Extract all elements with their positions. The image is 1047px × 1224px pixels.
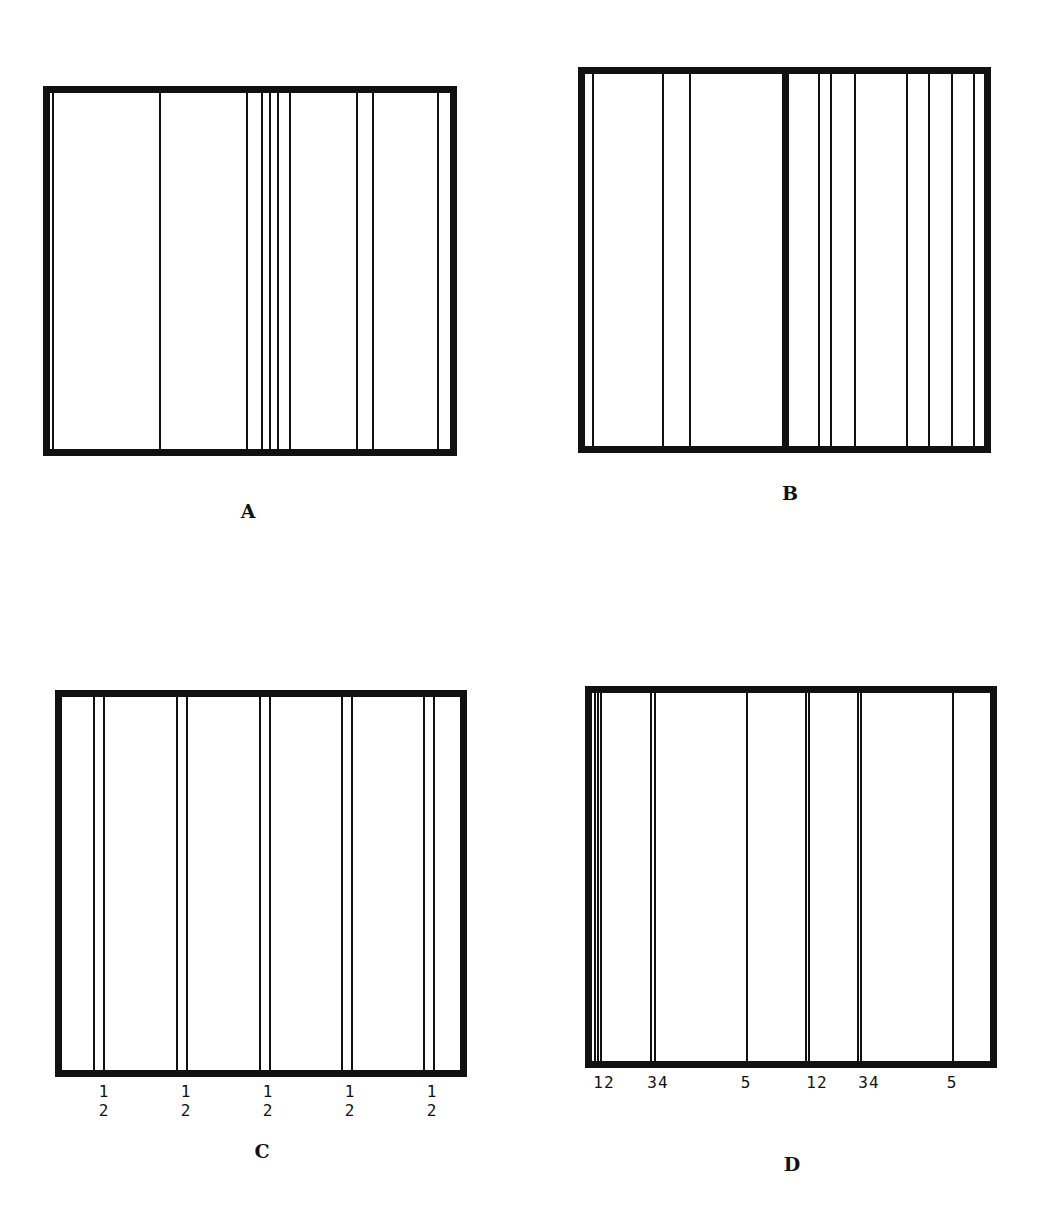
vertical-line [277,93,279,449]
line-label: 12 [593,1073,614,1092]
vertical-line [857,693,859,1061]
vertical-line [662,74,664,446]
line-label: 5 [947,1073,958,1092]
vertical-line [906,74,908,446]
vertical-line [860,693,862,1061]
vertical-line [830,74,832,446]
vertical-line [259,697,261,1070]
vertical-line [597,693,599,1061]
panel-frame [578,67,991,453]
vertical-line [805,693,807,1061]
line-label: 12 [806,1073,827,1092]
vertical-line [433,697,435,1070]
vertical-line [654,693,656,1061]
line-label: 1 2 [181,1082,192,1120]
vertical-line [600,693,602,1061]
vertical-line [186,697,188,1070]
vertical-line [261,93,263,449]
panel-frame [585,686,997,1068]
vertical-line [818,74,820,446]
panel-caption: C [254,1140,269,1162]
vertical-line [854,74,856,446]
vertical-line [159,93,161,449]
vertical-line [269,93,271,449]
panel-frame [43,86,457,456]
line-label: 34 [858,1073,879,1092]
panel-caption: A [241,500,256,522]
vertical-line [808,693,810,1061]
vertical-line [973,74,975,446]
vertical-line [176,697,178,1070]
vertical-line [423,697,425,1070]
vertical-line [103,697,105,1070]
line-label: 34 [647,1073,668,1092]
vertical-line [951,74,953,446]
vertical-line [52,93,54,449]
vertical-line [341,697,343,1070]
vertical-line [437,93,439,449]
vertical-line [650,693,652,1061]
line-label: 1 2 [99,1082,110,1120]
line-label: 1 2 [427,1082,438,1120]
vertical-line [594,693,596,1061]
panel-caption: B [782,482,798,504]
line-label: 1 2 [345,1082,356,1120]
vertical-line [289,93,291,449]
vertical-line [269,697,271,1070]
vertical-line [246,93,248,449]
vertical-line [356,93,358,449]
vertical-line [93,697,95,1070]
vertical-line [689,74,691,446]
vertical-line [592,74,594,446]
vertical-line [746,693,748,1061]
panel-frame [55,690,467,1077]
panel-caption: D [784,1153,800,1175]
vertical-line [928,74,930,446]
divider-line [782,74,789,446]
vertical-line [952,693,954,1061]
vertical-line [372,93,374,449]
line-label: 5 [741,1073,752,1092]
line-label: 1 2 [263,1082,274,1120]
vertical-line [351,697,353,1070]
